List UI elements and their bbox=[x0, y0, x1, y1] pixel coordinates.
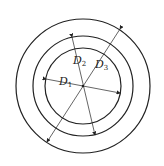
center-point bbox=[82, 85, 85, 88]
d3-label: D3 bbox=[94, 58, 108, 72]
d2-label: D2 bbox=[72, 54, 86, 68]
d1-label: D1 bbox=[58, 75, 72, 89]
diagram-canvas: D1 D2 D3 bbox=[0, 0, 164, 166]
concentric-circles-diagram: D1 D2 D3 bbox=[0, 0, 164, 166]
